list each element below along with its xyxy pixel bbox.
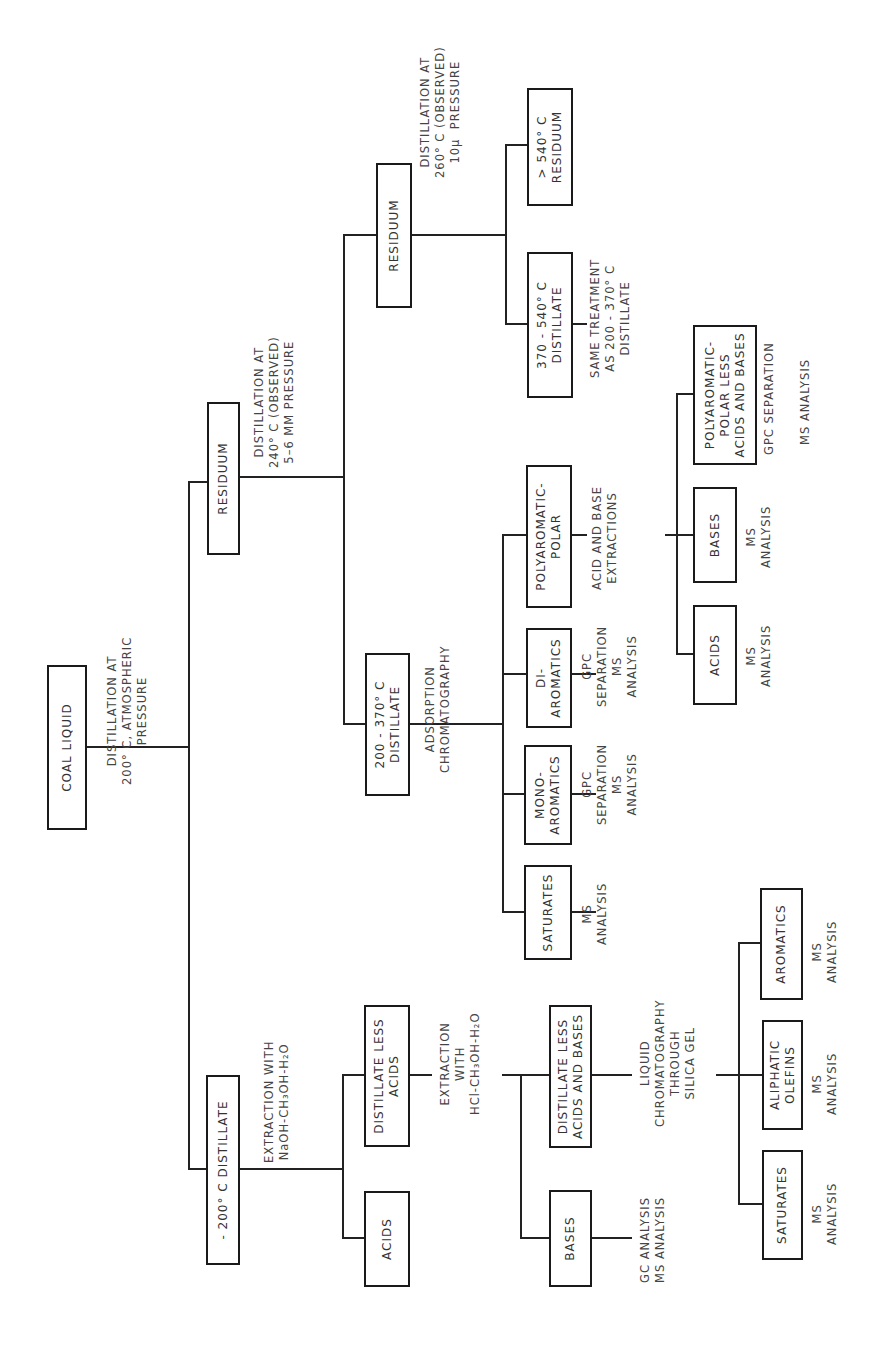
- connector: [412, 235, 505, 237]
- node-bases-2: BASES: [693, 487, 737, 583]
- label-gc-ms-analysis: GC ANALYSIS MS ANALYSIS: [638, 1197, 668, 1283]
- node-aliphatic-olefins: ALIPHATIC OLEFINS: [762, 1020, 803, 1130]
- connector: [592, 1075, 632, 1077]
- label-extraction-naoh: EXTRACTION WITH NaOH-CH₃OH-H₂O: [262, 1041, 292, 1163]
- node-mono-aromatics: MONO- AROMATICS: [524, 745, 572, 845]
- connector: [342, 1075, 364, 1077]
- node-polyaromatic-polar: POLYAROMATIC- POLAR: [526, 465, 572, 608]
- label-ms-analysis-olefins: MS ANALYSIS: [810, 1053, 840, 1115]
- node-above-540-residuum: > 540° C RESIDUUM: [527, 88, 573, 206]
- node-polyaromatic-polar-less-acids-bases: POLYAROMATIC- POLAR LESS ACIDS AND BASES: [693, 325, 757, 465]
- connector: [188, 482, 207, 484]
- connector: [738, 1204, 762, 1206]
- connector: [505, 145, 507, 325]
- connector: [240, 1169, 342, 1171]
- connector: [738, 1075, 762, 1077]
- connector: [188, 1169, 206, 1171]
- node-aromatics: AROMATICS: [760, 888, 803, 1000]
- connector: [716, 1075, 738, 1077]
- label-ms-analysis-aromatics: MS ANALYSIS: [810, 921, 840, 983]
- node-acids-2: ACIDS: [693, 605, 737, 705]
- connector: [676, 654, 693, 656]
- connector: [343, 724, 365, 726]
- node-distillate-less-acids: DISTILLATE LESS ACIDS: [364, 1005, 410, 1147]
- connector: [676, 394, 678, 655]
- label-gpc-separation: GPC SEPARATION: [762, 342, 777, 455]
- label-gpc-ms-mono: GPC SEPARATION MS ANALYSIS: [580, 744, 640, 825]
- label-ms-analysis-bases-2: MS ANALYSIS: [744, 506, 774, 568]
- label-distillation-260: DISTILLATION AT 260° C (OBSERVED) 10μ PR…: [418, 46, 463, 178]
- connector: [343, 235, 376, 237]
- label-acid-base-extractions: ACID AND BASE EXTRACTIONS: [590, 486, 620, 590]
- label-adsorption-chromatography: ADSORPTION CHROMATOGRAPHY: [423, 645, 453, 773]
- node-saturates-1: SATURATES: [762, 1150, 803, 1260]
- connector: [240, 477, 343, 479]
- node-bases-1: BASES: [549, 1190, 592, 1287]
- node-coal-liquid: COAL LIQUID: [47, 665, 87, 830]
- connector: [502, 794, 524, 796]
- connector: [520, 1238, 549, 1240]
- label-ms-analysis-polyaromatic: MS ANALYSIS: [798, 359, 813, 445]
- connector: [410, 1075, 432, 1077]
- label-ms-analysis-saturates-1: MS ANALYSIS: [810, 1183, 840, 1245]
- connector: [502, 1075, 520, 1077]
- connector: [592, 1238, 632, 1240]
- node-minus200-distillate: - 200° C DISTILLATE: [206, 1075, 240, 1265]
- connector: [342, 1075, 344, 1239]
- connector: [738, 943, 760, 945]
- node-residuum-2: RESIDUUM: [376, 163, 412, 308]
- node-residuum-1: RESIDUUM: [207, 402, 240, 555]
- connector: [505, 324, 527, 326]
- label-ms-analysis-saturates-2: MS ANALYSIS: [580, 883, 610, 945]
- label-same-treatment: SAME TREATMENT AS 200 - 370° C DISTILLAT…: [588, 259, 633, 378]
- node-370-540-distillate: 370 - 540° C DISTILLATE: [527, 252, 573, 398]
- node-distillate-less-acids-and-bases: DISTILLATE LESS ACIDS AND BASES: [549, 1005, 592, 1148]
- node-acids-1: ACIDS: [364, 1191, 410, 1287]
- connector: [502, 674, 526, 676]
- node-200-370-distillate: 200 - 370° C DISTILLATE: [365, 653, 410, 796]
- label-extraction-hcl: EXTRACTION WITH HCl-CH₃OH-H₂O: [438, 1013, 483, 1115]
- connector: [343, 235, 345, 725]
- connector: [502, 912, 524, 914]
- label-ms-analysis-acids-2: MS ANALYSIS: [744, 625, 774, 687]
- connector: [676, 394, 693, 396]
- label-distillation-240: DISTILLATION AT 240° C (OBSERVED) 5–6 MM…: [252, 336, 297, 468]
- connector: [520, 1075, 522, 1239]
- connector: [520, 1075, 549, 1077]
- node-saturates-2: SATURATES: [524, 865, 572, 960]
- connector: [505, 145, 527, 147]
- label-distillation-200-atmospheric: DISTILLATION AT 200° C, ATMOSPHERIC PRES…: [105, 637, 150, 785]
- label-gpc-ms-di: GPC SEPARATION MS ANALYSIS: [580, 626, 640, 707]
- connector: [573, 324, 587, 326]
- coal-liquid-separation-flowchart: COAL LIQUID - 200° C DISTILLATE RESIDUUM…: [0, 0, 880, 1353]
- connector: [502, 535, 526, 537]
- label-liquid-chromatography: LIQUID CHROMATOGRAPHY THROUGH SILICA GEL: [638, 999, 698, 1127]
- connector: [342, 1238, 364, 1240]
- node-di-aromatics: DI- AROMATICS: [526, 628, 572, 728]
- connector: [676, 535, 693, 537]
- connector: [502, 535, 504, 913]
- connector: [188, 482, 190, 1170]
- connector: [572, 535, 587, 537]
